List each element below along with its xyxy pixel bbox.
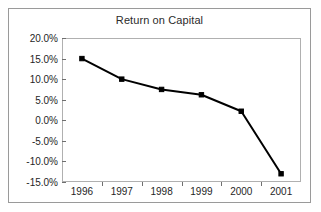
y-tick-label: -5.0%: [8, 135, 58, 146]
data-point-marker: [80, 56, 84, 60]
y-tick-mark: [62, 79, 66, 80]
chart-figure: Return on Capital 20.0%15.0%10.0%5.0%0.0…: [0, 0, 321, 212]
y-tick-label: 15.0%: [8, 53, 58, 64]
x-axis-label-group: 199619971998199920002001: [62, 186, 301, 202]
y-tick-mark: [62, 141, 66, 142]
x-tick-mark: [261, 182, 262, 186]
x-tick-mark: [142, 182, 143, 186]
y-tick-mark: [62, 182, 66, 183]
y-axis-label-group: 20.0%15.0%10.0%5.0%0.0%-5.0%-10.0%-15.0%: [8, 38, 58, 182]
x-tick-mark: [221, 182, 222, 186]
y-tick-label: 10.0%: [8, 74, 58, 85]
x-tick-label: 1997: [111, 186, 133, 197]
y-tick-mark: [62, 161, 66, 162]
y-tick-label: 0.0%: [8, 115, 58, 126]
y-tick-mark: [62, 120, 66, 121]
x-tick-label: 1998: [150, 186, 172, 197]
x-tick-label: 2000: [230, 186, 252, 197]
y-tick-label: -15.0%: [8, 177, 58, 188]
x-tick-mark: [182, 182, 183, 186]
line-series-layer: [62, 38, 301, 182]
series-line: [82, 59, 281, 174]
data-point-marker: [239, 109, 243, 113]
y-tick-mark: [62, 38, 66, 39]
chart-title: Return on Capital: [8, 14, 311, 26]
x-tick-mark: [102, 182, 103, 186]
y-tick-label: 20.0%: [8, 33, 58, 44]
x-tick-label: 1999: [190, 186, 212, 197]
data-point-marker: [159, 87, 163, 91]
y-tick-mark: [62, 59, 66, 60]
y-tick-label: 5.0%: [8, 94, 58, 105]
x-tick-label: 2001: [270, 186, 292, 197]
x-tick-label: 1996: [71, 186, 93, 197]
y-tick-label: -10.0%: [8, 156, 58, 167]
data-point-marker: [199, 93, 203, 97]
y-tick-mark: [62, 100, 66, 101]
data-point-marker: [120, 77, 124, 81]
data-point-marker: [279, 172, 283, 176]
